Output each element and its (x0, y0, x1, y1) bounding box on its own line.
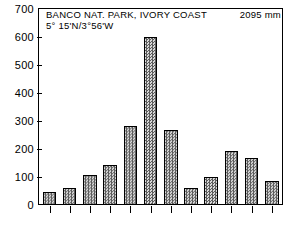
x-axis-tick-mark (211, 206, 212, 213)
bar (245, 158, 259, 204)
bar-series (0, 0, 293, 229)
x-axis-tick-mark (252, 206, 253, 213)
x-axis-tick-mark (130, 206, 131, 213)
bar (225, 151, 239, 204)
bar (265, 181, 279, 205)
climate-diagram: 0100200300400500600700 BANCO NAT. PARK, … (0, 0, 293, 229)
x-axis-tick-mark (50, 206, 51, 213)
bar (204, 177, 218, 205)
x-axis-tick-mark (110, 206, 111, 213)
bar (63, 188, 77, 204)
bar (144, 37, 158, 205)
x-axis-tick-mark (191, 206, 192, 213)
x-axis-tick-mark (70, 206, 71, 213)
bar (103, 165, 117, 204)
bar (184, 188, 198, 205)
bar (124, 126, 138, 204)
bar (43, 192, 57, 205)
x-axis-tick-mark (272, 206, 273, 213)
bar (83, 175, 97, 204)
x-axis-tick-mark (171, 206, 172, 213)
x-axis-tick-mark (231, 206, 232, 213)
x-axis-tick-mark (151, 206, 152, 213)
x-axis-tick-mark (90, 206, 91, 213)
bar (164, 130, 178, 204)
